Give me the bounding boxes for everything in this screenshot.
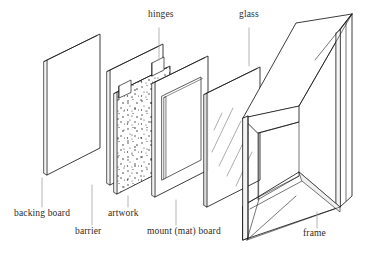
label-artwork: artwork [108,209,139,219]
label-glass: glass [239,10,259,20]
label-frame: frame [303,229,326,239]
label-hinges: hinges [148,10,174,20]
part-glass [204,67,260,207]
part-backing-board [44,34,100,175]
part-frame [243,14,352,240]
label-backing-board: backing board [14,209,70,219]
label-mount-mat-board: mount (mat) board [147,227,221,237]
label-barrier: barrier [75,227,101,237]
diagram-page: hinges glass backing board barrier artwo… [0,0,365,270]
